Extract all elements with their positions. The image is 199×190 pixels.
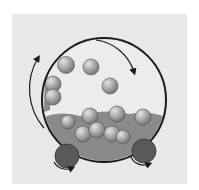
grinding-ball [89,122,105,138]
grinding-ball [102,78,118,94]
grinding-ball [75,126,91,142]
drive-roller [132,139,156,163]
grinding-ball [58,57,75,74]
grinding-ball [82,108,98,124]
grinding-ball [61,115,75,129]
grinding-ball [83,59,99,75]
grinding-ball [135,109,151,125]
grinding-ball [45,89,61,105]
ball-mill-diagram [0,0,199,190]
grinding-ball [109,106,125,122]
grinding-ball [116,130,130,144]
drive-roller [55,144,79,168]
